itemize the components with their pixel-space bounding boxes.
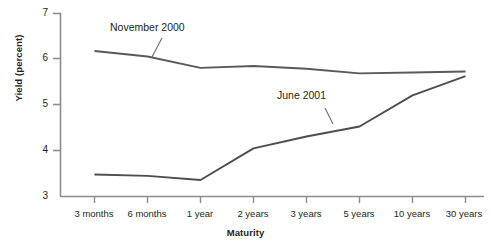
y-axis-title: Yield (percent) — [8, 8, 24, 128]
x-tick-label-3-months: 3 months — [74, 208, 113, 219]
series-annotation-november-2000: November 2000 — [110, 21, 185, 33]
x-tick-label-10-years: 10 years — [394, 208, 430, 219]
series-annotation-june-2001: June 2001 — [277, 89, 326, 101]
leader-line-june-2001 — [325, 108, 333, 124]
series-line-november-2000 — [95, 51, 466, 73]
leader-line-november-2000 — [152, 38, 162, 57]
chart-plot-area — [0, 0, 491, 242]
x-tick-label-30-years: 30 years — [446, 208, 482, 219]
x-tick-label-5-years: 5 years — [343, 208, 374, 219]
y-tick-label-4: 4 — [26, 144, 48, 155]
y-tick-label-3: 3 — [26, 190, 48, 201]
y-tick-label-5: 5 — [26, 98, 48, 109]
x-tick-label-6-months: 6 months — [127, 208, 166, 219]
y-tick-label-6: 6 — [26, 52, 48, 63]
yield-curve-chart: 7 6 5 4 3 3 months 6 months 1 year 2 yea… — [0, 0, 491, 242]
x-tick-label-3-years: 3 years — [290, 208, 321, 219]
y-axis-title-text: Yield (percent) — [13, 34, 24, 101]
x-tick-label-2-years: 2 years — [237, 208, 268, 219]
y-tick-label-7: 7 — [26, 7, 48, 18]
x-axis-title: Maturity — [0, 227, 491, 238]
x-tick-label-1-year: 1 year — [187, 208, 213, 219]
